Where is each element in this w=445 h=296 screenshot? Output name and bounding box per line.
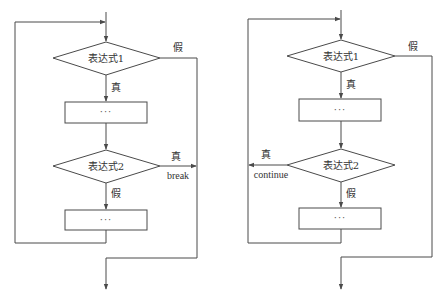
block2-ellipsis: ··· bbox=[334, 212, 347, 223]
loop-bottom-line bbox=[15, 230, 106, 243]
block2-ellipsis: ··· bbox=[100, 214, 113, 225]
loop-bottom-line bbox=[248, 229, 341, 243]
condition1-true-label: 真 bbox=[346, 78, 356, 90]
condition1-false-label: 假 bbox=[173, 41, 183, 53]
condition1-label: 表达式1 bbox=[323, 50, 359, 62]
condition1-label: 表达式1 bbox=[88, 52, 124, 64]
condition1-true-label: 真 bbox=[111, 81, 121, 93]
flowchart-canvas: 表达式1 假 真 ··· 表达式2 真 break 假 ··· 表达 bbox=[0, 0, 445, 296]
condition2-true-label: 真 bbox=[171, 150, 181, 162]
block1-ellipsis: ··· bbox=[334, 104, 347, 115]
continue-label: continue bbox=[254, 169, 289, 180]
break-label: break bbox=[167, 170, 189, 181]
block1-ellipsis: ··· bbox=[100, 106, 113, 117]
condition2-false-label: 假 bbox=[111, 187, 121, 199]
condition2-false-label: 假 bbox=[346, 187, 356, 199]
condition2-label: 表达式2 bbox=[88, 160, 124, 172]
condition1-false-label: 假 bbox=[408, 40, 418, 52]
condition2-true-label: 真 bbox=[261, 148, 271, 160]
continue-flowchart: 表达式1 假 真 ··· 表达式2 真 continue 假 ··· bbox=[248, 10, 432, 289]
break-flowchart: 表达式1 假 真 ··· 表达式2 真 break 假 ··· bbox=[15, 12, 197, 289]
condition2-label: 表达式2 bbox=[323, 159, 359, 171]
